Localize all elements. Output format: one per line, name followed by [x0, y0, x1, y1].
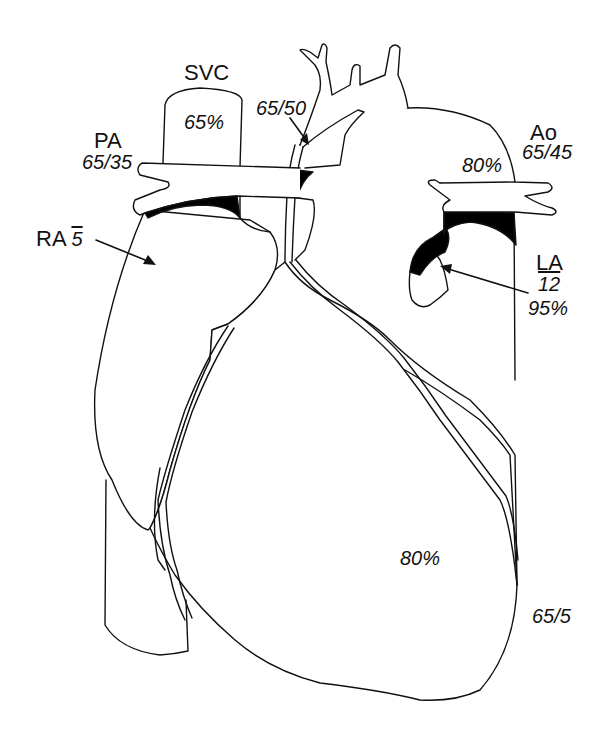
label-ra: RA 5 [36, 228, 83, 250]
label-ductus-pressure: 65/50 [256, 98, 306, 118]
label-ao-saturation: 80% [462, 155, 502, 175]
label-pa-pressure: 65/35 [82, 152, 132, 172]
label-la-mean-pressure: 12 [538, 274, 560, 294]
label-svc-saturation: 65% [184, 112, 224, 132]
left-atrium [409, 210, 516, 380]
label-la: LA [536, 252, 563, 274]
label-pa: PA [94, 130, 122, 152]
label-svc: SVC [184, 62, 229, 84]
label-ao-pressure: 65/45 [522, 142, 572, 162]
label-la-saturation: 95% [528, 298, 568, 318]
label-ventricle-saturation: 80% [400, 548, 440, 568]
label-ra-name: RA [36, 226, 65, 251]
label-ventricle-pressure: 65/5 [532, 606, 571, 626]
aorta [300, 44, 556, 215]
label-ra-mean-pressure: 5 [71, 228, 82, 250]
